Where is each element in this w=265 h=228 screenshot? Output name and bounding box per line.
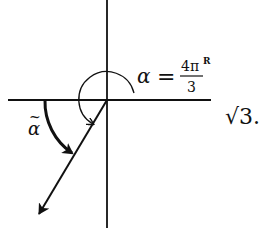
equals-sign: =	[157, 64, 175, 89]
fraction-denominator: 3	[187, 79, 196, 95]
fraction-numerator: 4π	[181, 58, 199, 74]
terminal-ray-arrow	[39, 100, 107, 214]
alpha-tilde-arc-arrow	[45, 100, 72, 153]
alpha-label: α	[137, 64, 151, 88]
sqrt-three-text: √3.	[225, 104, 260, 129]
angle-diagram: α = 4π R 3 α ~ √3.	[0, 0, 265, 228]
fraction-superscript: R	[203, 56, 211, 66]
tilde-mark: ~	[29, 109, 41, 125]
